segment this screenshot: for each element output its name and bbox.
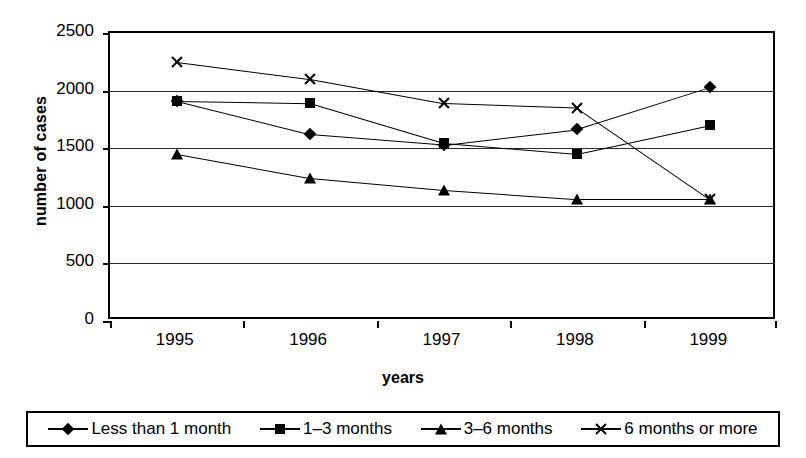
x-tick [243,321,245,328]
legend-item-4[interactable]: 6 months or more [581,419,757,439]
x-tick [510,321,512,328]
y-axis-title: number of cases [32,36,50,286]
data-point [710,199,724,213]
triangle-marker-icon [435,424,447,435]
x-marker-icon [594,422,608,436]
y-tick [103,263,110,265]
data-point [444,103,458,117]
legend-key [421,421,461,437]
y-tick-label: 1500 [30,137,94,154]
plot-area [108,31,775,319]
y-tick [103,321,110,323]
y-tick-label: 0 [30,310,94,327]
legend-key [48,421,88,437]
line-segment [310,79,444,104]
data-point [310,79,324,93]
legend-key [581,421,621,437]
line-segment [177,62,311,80]
y-tick-label: 2000 [30,80,94,97]
y-tick-label: 1000 [30,195,94,212]
data-point [577,108,591,122]
x-tick [110,321,112,328]
legend-label: Less than 1 month [91,419,231,439]
diamond-marker-icon [62,423,75,436]
line-segment [576,108,710,200]
chart-legend: Less than 1 month1–3 months3–6 months6 m… [26,411,780,447]
x-marker-icon [570,101,584,115]
line-segment [443,103,576,109]
y-tick [103,33,110,35]
line-chart-figure: number of cases 05001000150020002500 199… [0,0,806,458]
legend-item-1[interactable]: Less than 1 month [48,419,231,439]
y-tick-label: 2500 [30,22,94,39]
y-tick [103,206,110,208]
x-axis-title: years [0,369,806,387]
y-tick [103,148,110,150]
x-marker-icon [303,72,317,86]
y-tick [103,91,110,93]
x-marker-icon [703,192,717,206]
y-tick-label: 500 [30,252,94,269]
x-tick [377,321,379,328]
legend-item-2[interactable]: 1–3 months [260,419,392,439]
data-point [177,62,191,76]
legend-label: 6 months or more [624,419,757,439]
legend-label: 3–6 months [464,419,553,439]
x-tick [775,321,777,328]
x-tick-label: 1995 [115,330,235,350]
x-tick-label: 1999 [648,330,768,350]
x-marker-icon [170,55,184,69]
legend-label: 1–3 months [303,419,392,439]
square-marker-icon [275,424,285,434]
series-4 [110,33,773,317]
x-tick-label: 1997 [382,330,502,350]
x-tick [644,321,646,328]
x-tick-label: 1996 [248,330,368,350]
x-tick-label: 1998 [515,330,635,350]
x-marker-icon [437,96,451,110]
legend-key [260,421,300,437]
legend-item-3[interactable]: 3–6 months [421,419,553,439]
